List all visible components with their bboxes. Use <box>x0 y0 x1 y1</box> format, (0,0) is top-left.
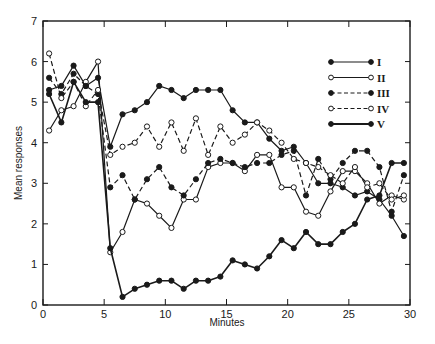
data-point <box>291 246 296 251</box>
data-point <box>401 233 406 238</box>
data-point <box>47 51 52 56</box>
data-point <box>206 152 211 157</box>
data-point <box>340 160 345 165</box>
data-point <box>181 286 186 291</box>
data-point <box>377 193 382 198</box>
data-point <box>316 213 321 218</box>
data-point <box>267 128 272 133</box>
data-point <box>242 120 247 125</box>
data-point <box>218 87 223 92</box>
legend-item-IV: IV <box>329 103 390 115</box>
data-point <box>218 156 223 161</box>
data-point <box>352 193 357 198</box>
data-point <box>401 160 406 165</box>
data-point <box>132 140 137 145</box>
y-tick-label: 5 <box>31 96 37 108</box>
data-point <box>340 169 345 174</box>
data-point <box>267 254 272 259</box>
legend: IIIIIIIVV <box>329 56 390 130</box>
data-point <box>254 152 259 157</box>
legend-marker <box>369 75 374 80</box>
data-point <box>169 185 174 190</box>
data-point <box>340 181 345 186</box>
data-point <box>230 140 235 145</box>
data-point <box>108 185 113 190</box>
data-point <box>83 100 88 105</box>
data-point <box>71 63 76 68</box>
data-point <box>206 87 211 92</box>
data-point <box>267 136 272 141</box>
data-point <box>59 95 64 100</box>
line-chart: 051015202530 01234567 Minutes Mean respo… <box>0 0 435 344</box>
data-point <box>157 278 162 283</box>
legend-marker <box>369 122 374 127</box>
data-point <box>218 124 223 129</box>
data-point <box>242 132 247 137</box>
data-point <box>71 79 76 84</box>
series-V <box>47 79 407 299</box>
series-group <box>47 51 407 300</box>
data-point <box>193 278 198 283</box>
data-point <box>181 148 186 153</box>
data-point <box>59 83 64 88</box>
y-tick-label: 0 <box>31 299 37 311</box>
data-point <box>267 160 272 165</box>
data-point <box>365 197 370 202</box>
legend-label: II <box>377 72 386 84</box>
data-point <box>144 100 149 105</box>
data-point <box>291 185 296 190</box>
data-point <box>230 108 235 113</box>
data-point <box>120 112 125 117</box>
legend-label: IV <box>377 103 389 115</box>
data-point <box>71 104 76 109</box>
data-point <box>169 225 174 230</box>
y-tick-label: 6 <box>31 56 37 68</box>
x-axis-title: Minutes <box>209 317 244 328</box>
data-point <box>193 177 198 182</box>
legend-marker <box>329 91 334 96</box>
data-point <box>316 156 321 161</box>
data-point <box>242 262 247 267</box>
data-point <box>95 100 100 105</box>
legend-marker <box>369 91 374 96</box>
data-point <box>108 246 113 251</box>
data-point <box>144 177 149 182</box>
x-axis: 051015202530 <box>40 21 416 320</box>
legend-marker <box>329 106 334 111</box>
data-point <box>206 278 211 283</box>
data-point <box>169 87 174 92</box>
legend-label: III <box>377 87 390 99</box>
data-point <box>352 164 357 169</box>
data-point <box>303 160 308 165</box>
y-tick-label: 4 <box>31 137 37 149</box>
data-point <box>169 120 174 125</box>
data-point <box>389 160 394 165</box>
legend-item-I: I <box>329 56 382 68</box>
data-point <box>316 164 321 169</box>
data-point <box>230 160 235 165</box>
data-point <box>132 197 137 202</box>
data-point <box>95 59 100 64</box>
data-point <box>267 152 272 157</box>
data-point <box>157 213 162 218</box>
data-point <box>108 152 113 157</box>
data-point <box>71 71 76 76</box>
data-point <box>389 197 394 202</box>
data-point <box>230 258 235 263</box>
data-point <box>144 124 149 129</box>
x-tick-label: 25 <box>343 308 355 320</box>
data-point <box>83 83 88 88</box>
data-point <box>279 237 284 242</box>
x-tick-label: 5 <box>101 308 107 320</box>
legend-marker <box>369 106 374 111</box>
y-tick-label: 3 <box>31 177 37 189</box>
x-tick-label: 30 <box>404 308 416 320</box>
y-tick-label: 2 <box>31 218 37 230</box>
data-point <box>303 193 308 198</box>
data-point <box>206 160 211 165</box>
data-point <box>377 164 382 169</box>
data-point <box>279 140 284 145</box>
data-point <box>291 156 296 161</box>
legend-item-III: III <box>329 87 390 99</box>
data-point <box>47 75 52 80</box>
